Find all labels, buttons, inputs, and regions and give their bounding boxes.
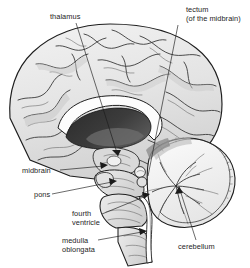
label-tectum-line1: tectum bbox=[186, 5, 208, 14]
brain-diagram-figure: thalamus tectum (of the midbrain) midbra… bbox=[0, 0, 250, 268]
label-tectum-line2: (of the midbrain) bbox=[186, 14, 241, 23]
label-fourth-ventricle-line2: ventricle bbox=[72, 218, 100, 227]
label-midbrain: midbrain bbox=[22, 166, 51, 175]
cerebellum-group bbox=[145, 132, 237, 236]
interthalamic-adhesion bbox=[107, 156, 121, 166]
label-thalamus: thalamus bbox=[50, 12, 81, 21]
brainstem-group bbox=[95, 167, 152, 266]
label-cerebellum: cerebellum bbox=[178, 242, 215, 251]
label-medulla-line2: oblongata bbox=[62, 245, 96, 254]
label-fourth-ventricle-line1: fourth bbox=[72, 209, 91, 218]
label-medulla-line1: medulla bbox=[62, 236, 89, 245]
label-pons: pons bbox=[34, 190, 50, 199]
brain-illustration: thalamus tectum (of the midbrain) midbra… bbox=[0, 0, 250, 268]
